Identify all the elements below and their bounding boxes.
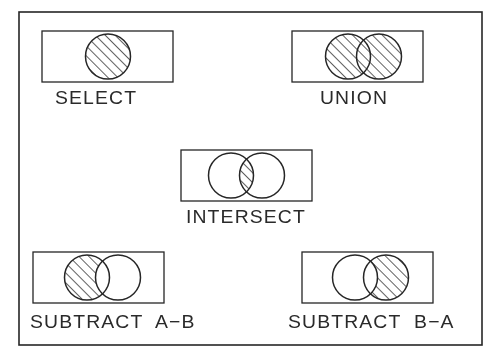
subtract-b-a-hatch-fill [328, 250, 413, 308]
label-union: UNION [320, 88, 388, 107]
subtract-a-b-hatch-fill [60, 250, 145, 308]
label-intersect: INTERSECT [186, 207, 306, 226]
operation-subtract-a-b [33, 250, 164, 308]
operation-intersect [181, 148, 312, 206]
diagram-page: SELECT UNION INTERSECT SUBTRACT A−B SUBT… [0, 0, 493, 359]
operation-union [292, 28, 423, 86]
boolean-operations-figure [0, 0, 493, 359]
label-subtract-a-b: SUBTRACT A−B [30, 312, 196, 331]
label-select: SELECT [55, 88, 137, 107]
operation-select [42, 30, 173, 85]
label-subtract-b-a: SUBTRACT B−A [288, 312, 455, 331]
union-hatch-fill [320, 28, 405, 86]
operation-subtract-b-a [302, 250, 433, 308]
